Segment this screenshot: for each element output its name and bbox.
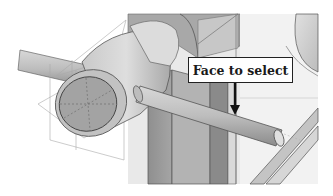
cad-model-graphic bbox=[0, 0, 333, 196]
callout-label: Face to select bbox=[188, 57, 293, 83]
vertical-plate-face bbox=[172, 70, 210, 184]
cad-viewport[interactable]: Face to select bbox=[0, 0, 333, 196]
